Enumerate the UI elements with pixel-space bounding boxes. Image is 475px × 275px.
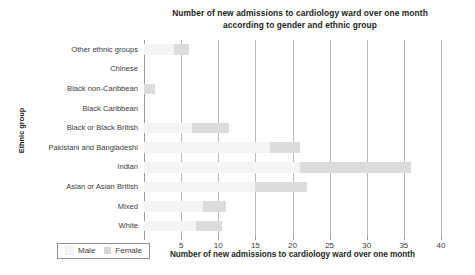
y-tick-label: Black or Black British <box>0 123 138 132</box>
bar-segment-male <box>144 201 203 212</box>
chart-legend: Male Female <box>57 243 150 259</box>
legend-swatch-male-icon <box>65 246 74 255</box>
bar-row <box>144 79 441 99</box>
x-tick-label: 25 <box>315 241 345 250</box>
bar-segment-female <box>144 84 155 95</box>
legend-label-female: Female <box>115 246 142 255</box>
bar-segment-female <box>192 123 229 134</box>
legend-item-female[interactable]: Female <box>104 246 142 255</box>
bar-row <box>144 138 441 158</box>
bar-segment-female <box>203 201 225 212</box>
x-tick-mark <box>330 236 331 240</box>
bar-segment-female <box>196 221 222 232</box>
legend-label-male: Male <box>78 246 95 255</box>
bar-segment-female <box>255 182 307 193</box>
x-tick-mark <box>367 236 368 240</box>
x-tick-label: 35 <box>389 241 419 250</box>
bar-row <box>144 60 441 80</box>
y-tick-label: Black non-Caribbean <box>0 84 138 93</box>
y-tick-label: Asian or Asian British <box>0 182 138 191</box>
chart-title: Number of new admissions to cardiology w… <box>140 8 460 31</box>
legend-item-male[interactable]: Male <box>65 246 95 255</box>
y-tick-label: White <box>0 221 138 230</box>
bar-segment-female <box>174 44 189 55</box>
chart-title-line-2: according to gender and ethnic group <box>140 20 460 32</box>
x-tick-label: 15 <box>240 241 270 250</box>
x-tick-label: 40 <box>426 241 456 250</box>
y-tick-label: Mixed <box>0 202 138 211</box>
x-tick-mark <box>441 236 442 240</box>
legend-swatch-female-icon <box>104 247 111 254</box>
x-tick-label: 10 <box>203 241 233 250</box>
x-tick-mark <box>218 236 219 240</box>
x-tick-label: 5 <box>166 241 196 250</box>
chart-title-line-1: Number of new admissions to cardiology w… <box>140 8 460 20</box>
gridline <box>441 40 442 236</box>
bar-row <box>144 177 441 197</box>
bar-segment-female <box>300 162 411 173</box>
x-tick-mark <box>404 236 405 240</box>
x-tick-mark <box>144 236 145 240</box>
bar-row <box>144 216 441 236</box>
y-tick-label: Chinese <box>0 64 138 73</box>
x-tick-mark <box>255 236 256 240</box>
bar-chart: Number of new admissions to cardiology w… <box>0 0 475 275</box>
bar-row <box>144 158 441 178</box>
y-tick-label: Pakistani and Bangladeshi <box>0 143 138 152</box>
x-tick-mark <box>181 236 182 240</box>
plot-area: 0510152025303540 <box>144 40 441 236</box>
y-tick-label: Indian <box>0 162 138 171</box>
bar-segment-male <box>144 44 174 55</box>
bar-segment-male <box>144 123 192 134</box>
bar-segment-male <box>144 182 255 193</box>
bar-segment-male <box>144 162 300 173</box>
bar-segment-male <box>144 142 270 153</box>
x-axis-title: Number of new admissions to cardiology w… <box>144 250 441 259</box>
bar-row <box>144 118 441 138</box>
bar-row <box>144 40 441 60</box>
y-tick-label: Other ethnic groups <box>0 45 138 54</box>
bar-segment-female <box>270 142 300 153</box>
bar-row <box>144 99 441 119</box>
bar-segment-male <box>144 221 196 232</box>
x-tick-label: 20 <box>278 241 308 250</box>
y-tick-label: Black Caribbean <box>0 104 138 113</box>
bar-row <box>144 197 441 217</box>
x-tick-mark <box>293 236 294 240</box>
x-tick-label: 30 <box>352 241 382 250</box>
